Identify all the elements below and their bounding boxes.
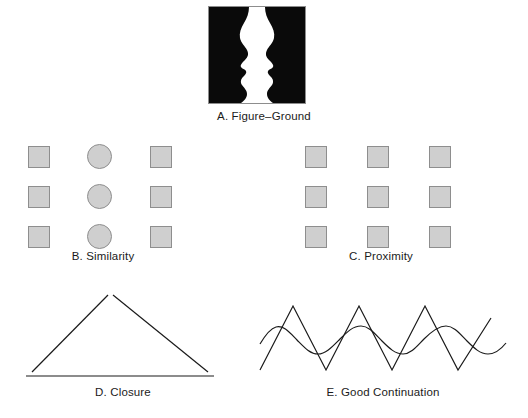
similarity-square	[28, 146, 50, 168]
panel-caption-similarity: B. Similarity	[28, 250, 178, 262]
proximity-square	[367, 146, 389, 168]
similarity-square	[150, 226, 172, 248]
proximity-square	[429, 146, 451, 168]
panel-caption-figure-ground: A. Figure–Ground	[208, 110, 320, 122]
proximity-square	[305, 146, 327, 168]
panel-good-continuation: E. Good Continuation	[258, 288, 508, 410]
rubin-faces-vase-illusion-image	[208, 6, 306, 104]
panel-caption-closure: D. Closure	[18, 386, 228, 398]
similarity-circle	[87, 184, 112, 209]
panel-similarity: B. Similarity	[28, 146, 178, 266]
panel-figure-ground: A. Figure–Ground	[208, 6, 320, 130]
similarity-square	[28, 186, 50, 208]
similarity-square	[150, 186, 172, 208]
good-continuation-drawing	[258, 288, 508, 383]
similarity-circle	[87, 224, 112, 249]
similarity-square	[150, 146, 172, 168]
similarity-circle	[87, 144, 112, 169]
panel-caption-proximity: C. Proximity	[305, 250, 457, 262]
sine-wave-path	[260, 326, 506, 354]
proximity-square	[429, 186, 451, 208]
proximity-square	[429, 226, 451, 248]
gestalt-principles-figure: A. Figure–Ground B. Similarity	[0, 0, 528, 418]
panel-caption-good-continuation: E. Good Continuation	[258, 386, 508, 398]
similarity-square	[28, 226, 50, 248]
panel-proximity: C. Proximity	[305, 146, 457, 266]
proximity-square	[367, 186, 389, 208]
proximity-square	[305, 226, 327, 248]
panel-closure: D. Closure	[18, 288, 228, 410]
proximity-square	[305, 186, 327, 208]
proximity-square	[367, 226, 389, 248]
closure-open-triangle-drawing	[18, 288, 228, 383]
